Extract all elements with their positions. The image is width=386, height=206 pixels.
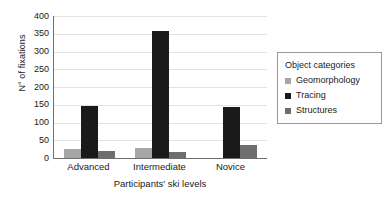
y-tick-label: 150 <box>20 100 49 109</box>
x-axis-label: Intermediate <box>124 161 195 173</box>
y-tick-label: 300 <box>20 47 49 56</box>
legend-items: GeomorphologyTracingStructures <box>285 75 374 116</box>
bar <box>81 106 98 158</box>
x-axis-title: Participants' ski levels <box>53 178 267 189</box>
plot-area <box>53 16 267 158</box>
bar <box>240 145 257 158</box>
legend-title: Object categories <box>285 59 374 71</box>
legend-label: Tracing <box>296 90 326 101</box>
bar <box>223 107 240 158</box>
y-tick-label: 250 <box>20 65 49 74</box>
legend-item: Tracing <box>285 90 374 101</box>
bar <box>64 149 81 158</box>
y-tick-label: 50 <box>20 136 49 145</box>
legend: Object categories GeomorphologyTracingSt… <box>277 52 382 124</box>
y-tick-label: 100 <box>20 118 49 127</box>
x-axis-label: Novice <box>195 161 266 173</box>
x-axis-label: Advanced <box>53 161 124 173</box>
legend-swatch-icon <box>285 93 291 99</box>
y-tick-label: 400 <box>20 12 49 21</box>
x-axis-category-labels: AdvancedIntermediateNovice <box>53 161 267 175</box>
legend-swatch-icon <box>285 108 291 114</box>
bar-group <box>135 16 186 158</box>
legend-item: Geomorphology <box>285 75 374 86</box>
legend-item: Structures <box>285 105 374 116</box>
legend-swatch-icon <box>285 78 291 84</box>
bar-group <box>206 16 257 158</box>
legend-label: Structures <box>296 105 337 116</box>
bar <box>152 31 169 158</box>
y-tick-label: 350 <box>20 29 49 38</box>
x-axis-line <box>53 158 267 159</box>
y-tick-label: 0 <box>20 154 49 163</box>
bar-group <box>64 16 115 158</box>
bar <box>135 148 152 158</box>
bar-chart-figure: N° of fixations 400350300250200150100500… <box>0 0 386 206</box>
y-axis-tick-labels: 400350300250200150100500 <box>20 10 49 162</box>
bar <box>98 151 115 158</box>
legend-label: Geomorphology <box>296 75 360 86</box>
y-tick-label: 200 <box>20 83 49 92</box>
